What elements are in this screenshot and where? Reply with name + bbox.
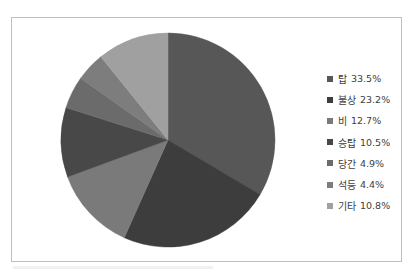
legend-label: 불상	[338, 92, 356, 107]
legend-value: 23.2%	[360, 94, 390, 105]
legend-label: 비	[338, 113, 347, 128]
legend-item-seokdeung: 석등 4.4%	[327, 174, 390, 195]
legend-value: 33.5%	[351, 73, 381, 84]
legend-label: 탑	[338, 71, 347, 86]
legend-value: 4.9%	[360, 158, 384, 169]
legend-value: 12.7%	[351, 115, 381, 126]
legend-swatch-icon	[327, 76, 333, 82]
legend-item-bi: 비 12.7%	[327, 110, 390, 131]
legend-item-danggan: 당간 4.9%	[327, 153, 390, 174]
legend-label: 승탑	[338, 135, 356, 150]
legend-value: 10.8%	[360, 200, 390, 211]
legend-label: 당간	[338, 156, 356, 171]
chart-legend: 탑 33.5% 불상 23.2% 비 12.7% 승탑 10.5% 당간 4.9…	[327, 68, 390, 216]
legend-label: 기타	[338, 198, 356, 213]
legend-label: 석등	[338, 177, 356, 192]
legend-item-tap: 탑 33.5%	[327, 68, 390, 89]
legend-swatch-icon	[327, 160, 333, 166]
pie-slices	[61, 33, 275, 247]
legend-swatch-icon	[327, 97, 333, 103]
legend-swatch-icon	[327, 203, 333, 209]
legend-item-seungtap: 승탑 10.5%	[327, 132, 390, 153]
legend-value: 10.5%	[360, 137, 390, 148]
faint-caption-line	[13, 266, 213, 269]
legend-swatch-icon	[327, 139, 333, 145]
legend-value: 4.4%	[360, 179, 384, 190]
legend-swatch-icon	[327, 118, 333, 124]
legend-item-bulsang: 불상 23.2%	[327, 89, 390, 110]
legend-item-gita: 기타 10.8%	[327, 195, 390, 216]
legend-swatch-icon	[327, 182, 333, 188]
